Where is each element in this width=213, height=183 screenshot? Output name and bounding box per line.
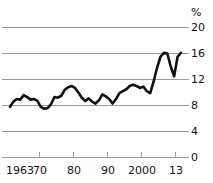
y-axis-label-4: 4: [191, 126, 198, 137]
y-axis-unit-label: %: [191, 7, 201, 18]
chart-container: % 20 16 12 8 4 0 1963 70 80 90 2000 13: [0, 0, 213, 183]
x-axis-label-1990: 90: [94, 165, 122, 176]
line-chart-plot: [0, 0, 213, 183]
x-axis-label-1970: 70: [26, 165, 54, 176]
y-axis-label-8: 8: [191, 100, 198, 111]
x-axis-label-2000: 2000: [122, 165, 162, 176]
gridlines: [2, 28, 184, 132]
y-axis-label-16: 16: [191, 48, 205, 59]
y-axis-label-20: 20: [191, 22, 205, 33]
x-axis-label-2013: 13: [162, 165, 190, 176]
y-axis-label-0: 0: [191, 152, 198, 163]
x-axis-label-1980: 80: [60, 165, 88, 176]
y-axis-label-12: 12: [191, 74, 205, 85]
data-line-series: [10, 53, 181, 109]
y-axis-tick-marks: [184, 28, 189, 158]
